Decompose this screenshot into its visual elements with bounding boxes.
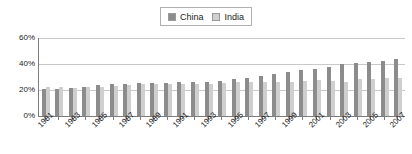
x-label-slot [52,121,66,151]
bar-group[interactable] [175,38,189,116]
bar-group[interactable] [378,38,392,116]
bar-group[interactable] [283,38,297,116]
bar-group[interactable] [39,38,53,116]
x-label-slot: 1999 [282,121,296,151]
y-tick-label: 60% [19,34,35,42]
x-label-slot: 1995 [228,121,242,151]
bar-india-2000[interactable] [303,81,307,116]
x-label-slot: 2001 [309,121,323,151]
x-axis-labels: 1981198319851987198919911993199519971999… [38,121,404,151]
x-label-slot [269,121,283,151]
bar-group[interactable] [215,38,229,116]
bar-india-1998[interactable] [276,82,280,116]
x-label-slot: 1981 [38,121,52,151]
bar-group[interactable] [351,38,365,116]
y-tick-label: 40% [19,60,35,68]
bar-group[interactable] [53,38,67,116]
y-tick-label: 0% [23,112,35,120]
bar-group[interactable] [148,38,162,116]
bar-group[interactable] [337,38,351,116]
bar-group[interactable] [242,38,256,116]
x-label-slot: 2007 [391,121,405,151]
x-label-slot [350,121,364,151]
x-label-slot [160,121,174,151]
bar-india-2004[interactable] [358,79,362,116]
x-label-slot: 1985 [92,121,106,151]
bar-chart: China India 0%20%40%60% 1981198319851987… [0,0,412,154]
x-label-slot [241,121,255,151]
x-label-slot [323,121,337,151]
x-label-slot: 1997 [255,121,269,151]
x-label-slot [214,121,228,151]
bar-group[interactable] [270,38,284,116]
bar-group[interactable] [365,38,379,116]
plot-area [38,38,405,117]
bar-india-2002[interactable] [331,81,335,116]
bar-india-1982[interactable] [59,87,63,116]
y-tick-label: 20% [19,86,35,94]
x-label-slot: 1983 [65,121,79,151]
x-label-slot [296,121,310,151]
x-label-slot [106,121,120,151]
bar-india-1984[interactable] [86,87,90,116]
bar-group[interactable] [392,38,406,116]
bar-group[interactable] [134,38,148,116]
bar-group[interactable] [256,38,270,116]
bar-india-2006[interactable] [385,78,389,116]
bar-series-container [39,38,405,116]
plot-wrapper: 0%20%40%60% 1981198319851987198919911993… [0,0,412,154]
x-label-slot: 2003 [336,121,350,151]
x-label-slot: 1987 [119,121,133,151]
bar-group[interactable] [80,38,94,116]
x-label-slot: 1989 [147,121,161,151]
bar-group[interactable] [310,38,324,116]
bar-group[interactable] [202,38,216,116]
bar-india-1986[interactable] [114,86,118,116]
bar-group[interactable] [120,38,134,116]
y-axis: 0%20%40%60% [8,33,35,119]
bar-india-1996[interactable] [249,82,253,116]
bar-india-1988[interactable] [141,84,145,116]
bar-india-1990[interactable] [168,84,172,117]
x-label-slot [133,121,147,151]
bar-group[interactable] [297,38,311,116]
bar-india-1994[interactable] [222,83,226,116]
bar-group[interactable] [93,38,107,116]
bar-india-1992[interactable] [195,84,199,117]
bar-group[interactable] [324,38,338,116]
bar-group[interactable] [107,38,121,116]
bar-group[interactable] [188,38,202,116]
x-label-slot [377,121,391,151]
x-label-slot: 1993 [201,121,215,151]
bar-group[interactable] [161,38,175,116]
bar-group[interactable] [66,38,80,116]
x-label-slot: 1991 [174,121,188,151]
x-label-slot [187,121,201,151]
bar-group[interactable] [229,38,243,116]
x-label-slot [79,121,93,151]
x-label-slot: 2005 [364,121,378,151]
